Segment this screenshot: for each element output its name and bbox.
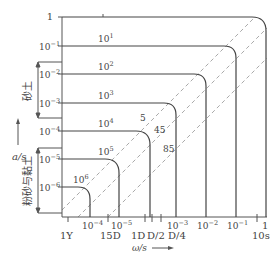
dashed-label-45: 45: [154, 125, 166, 135]
x-axis-label: ω/s: [132, 243, 147, 253]
y-label-10-1: 10−1: [39, 40, 60, 52]
curve-10-4: [62, 131, 150, 217]
time-mark-1d: 1D: [131, 230, 145, 241]
y-ticks: [58, 14, 103, 187]
curve-labels: 101 102 103 104 105 106: [73, 32, 114, 185]
time-mark-labels: 1Y 15D 1D D/2 D/4 10s: [60, 230, 270, 241]
y-tick-labels: 1 10−1 10−2 10−3 10−4 10−5 10−6: [39, 11, 60, 193]
time-mark-10s: 10s: [252, 230, 270, 241]
arrow-up-icon: [16, 118, 20, 124]
diagram-canvas: 1 10−1 10−2 10−3 10−4 10−5 10−6 a/s 砂土 粉…: [0, 0, 280, 255]
x-axis-title: ω/s: [132, 243, 174, 253]
dashed-line-85: [108, 58, 267, 217]
envelope-curves: [62, 17, 266, 217]
y-label-1: 1: [47, 11, 53, 22]
sand-label: 砂土: [21, 81, 33, 101]
y-label-10-3: 10−3: [39, 97, 60, 109]
time-mark-d2: D/2: [147, 230, 165, 241]
y-label-10-5: 10−5: [39, 153, 60, 165]
curve-label-10-5: 105: [98, 145, 114, 157]
curve-10-6: [62, 187, 90, 217]
time-mark-d4: D/4: [168, 230, 186, 241]
curve-label-10-3: 103: [98, 89, 114, 101]
x-label-10-2: 10−2: [197, 219, 218, 231]
curve-label-10-4: 104: [98, 117, 114, 129]
y-label-10-4: 10−4: [39, 125, 60, 137]
time-mark-1y: 1Y: [60, 230, 73, 241]
y-label-10-2: 10−2: [39, 68, 60, 80]
curve-10-2: [62, 74, 206, 217]
curve-label-10-6: 106: [73, 173, 89, 185]
arrow-right-icon: [168, 246, 174, 250]
y-axis-title: a/s: [12, 118, 26, 162]
time-mark-15d: 15D: [100, 230, 121, 241]
silt-clay-label: 粉砂与黏土: [21, 156, 33, 206]
dashed-label-85: 85: [163, 144, 175, 154]
y-label-10-6: 10−6: [39, 181, 60, 193]
dashed-label-5: 5: [140, 113, 146, 123]
curve-label-10-2: 102: [98, 60, 114, 72]
curve-label-10-1: 101: [98, 32, 114, 44]
x-label-10-1: 10−1: [227, 219, 248, 231]
